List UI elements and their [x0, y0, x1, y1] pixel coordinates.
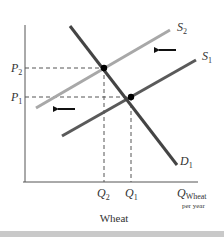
equilibrium-points	[101, 65, 134, 100]
x-axis-label: QWheat	[177, 186, 207, 201]
x-axis-label-per-year: per year	[182, 202, 205, 210]
demand-curve-d1	[70, 26, 177, 165]
label-d1: D1	[179, 154, 193, 170]
shift-arrows	[58, 50, 176, 109]
price-label-p2: P2	[10, 61, 22, 77]
quantity-label-q2: Q2	[97, 186, 110, 202]
label-s1: S1	[202, 49, 212, 65]
chart-title: Wheat	[100, 212, 129, 224]
price-label-p1: P1	[10, 90, 22, 106]
quantity-label-q1: Q1	[125, 186, 138, 202]
supply-demand-chart: S2 S1 D1 P2 P1 Q2 Q1 QWheat per year Whe…	[0, 0, 224, 237]
equilibrium-point	[101, 65, 107, 71]
label-s2: S2	[177, 20, 187, 36]
bottom-border	[0, 231, 224, 237]
equilibrium-point	[128, 94, 134, 100]
